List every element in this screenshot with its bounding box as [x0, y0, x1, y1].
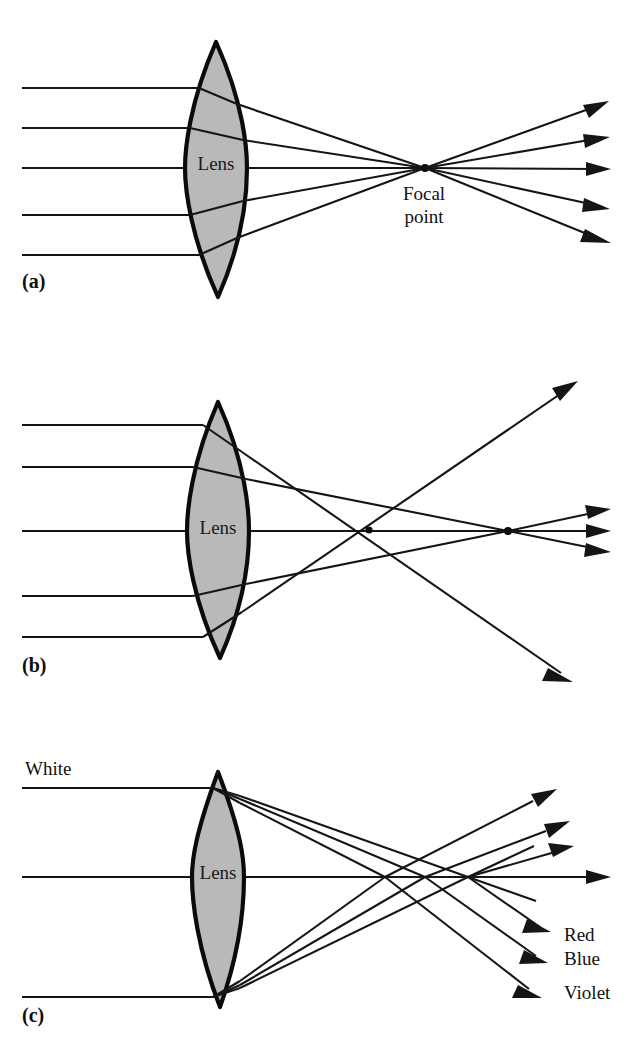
panel-b: Lens (b)	[22, 381, 611, 682]
arrowhead-red	[522, 919, 551, 933]
color-label-blue: Blue	[564, 948, 600, 969]
panel-label-c: (c)	[22, 1004, 44, 1027]
arrowhead-a-4	[582, 198, 610, 212]
diverging-ray-b-2	[508, 531, 597, 549]
panel-label-b: (b)	[22, 654, 46, 677]
diverging-ray-2	[425, 139, 595, 168]
arrowhead-a-2	[583, 134, 610, 148]
lens-aberration-diagram: Lens Focal point (	[0, 0, 635, 1038]
outer-ray-b-5	[242, 390, 566, 612]
diverging-ray-5	[425, 168, 597, 238]
lens-shape-c	[192, 772, 244, 1007]
arrowhead-c-up-1	[531, 789, 557, 807]
far-focal-point-marker-b	[504, 527, 512, 535]
panel-c-top-dispersion	[213, 788, 551, 998]
blue-ray-from-top	[240, 799, 425, 877]
lens-label-b: Lens	[200, 517, 237, 538]
focal-point-label-line1: Focal	[403, 183, 445, 204]
converging-ray-4	[243, 168, 425, 201]
arrowhead-c-axis	[586, 870, 611, 884]
panel-b-incoming-rays	[22, 425, 508, 637]
red-ray-to-label	[468, 877, 540, 927]
diverging-ray-4	[425, 168, 595, 205]
lens-label-c: Lens	[200, 862, 237, 883]
panel-c: White Lens	[22, 758, 611, 1027]
red-ray-from-bottom	[240, 877, 468, 988]
panel-a-diverging-rays	[425, 101, 611, 243]
panel-c-bottom-dispersion	[213, 789, 574, 997]
arrowhead-a-1	[583, 101, 609, 118]
arrowhead-a-3	[586, 162, 611, 176]
near-crossing-marker-b	[365, 526, 372, 533]
blue-ray-diverging-up	[425, 831, 546, 877]
arrowhead-blue	[519, 950, 548, 964]
color-label-violet: Violet	[564, 982, 611, 1003]
optics-figure: Lens Focal point (	[0, 0, 635, 1038]
diverging-ray-3-axis	[425, 168, 597, 169]
red-ray-diverging-down	[468, 877, 536, 901]
blue-ray-from-bottom	[240, 877, 425, 985]
focal-point-label-line2: point	[404, 206, 444, 227]
arrowhead-b-inner-lower	[584, 543, 611, 557]
panel-label-a: (a)	[22, 270, 45, 293]
converging-ray-1	[237, 104, 425, 168]
red-ray-from-top	[240, 796, 468, 877]
panel-a: Lens Focal point (	[22, 42, 611, 297]
converging-ray-2	[243, 140, 425, 168]
arrowhead-b-inner-upper	[585, 505, 611, 519]
diverging-ray-b-4	[508, 512, 597, 531]
lens-label-a: Lens	[198, 153, 235, 174]
converging-ray-b-4	[246, 531, 508, 584]
color-label-red: Red	[564, 924, 595, 945]
diverging-ray-1	[425, 106, 597, 168]
panel-c-incoming-rays	[22, 788, 611, 997]
outer-ray-b-1	[242, 452, 561, 673]
violet-ray-diverging-down	[385, 877, 529, 989]
arrowhead-c-up-2	[544, 821, 570, 838]
converging-ray-5	[237, 168, 425, 238]
arrowhead-a-5	[580, 229, 611, 243]
arrowhead-b-axis	[586, 524, 611, 538]
white-light-label: White	[25, 758, 71, 779]
converging-ray-b-2	[246, 479, 508, 531]
